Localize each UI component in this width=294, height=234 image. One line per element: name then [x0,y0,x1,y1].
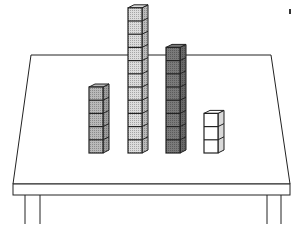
stack-1 [89,84,109,153]
table [13,55,290,224]
table-with-cube-stacks [0,0,294,234]
table-leg [267,195,281,224]
table-apron [13,184,290,195]
table-leg [25,195,40,224]
table-top [13,55,290,184]
stack-2 [128,5,148,153]
stack-4 [204,110,224,153]
stack-3 [166,44,186,153]
diagram-stage [0,0,294,234]
corner-mark [289,9,291,14]
